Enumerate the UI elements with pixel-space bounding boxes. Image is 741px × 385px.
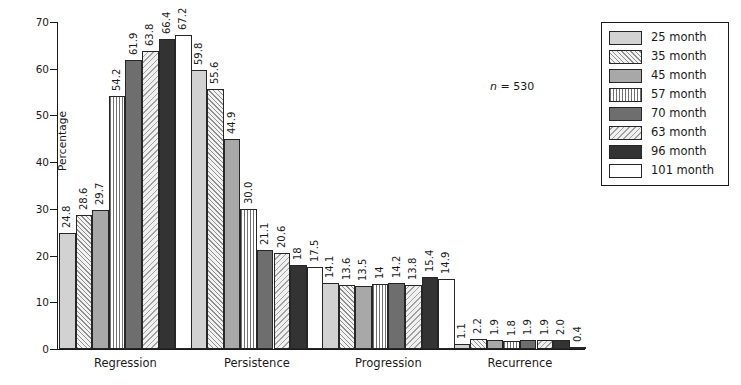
- y-axis-tick: [50, 349, 57, 350]
- y-axis-tick: [50, 302, 57, 303]
- bar-value-label: 59.8: [193, 42, 203, 64]
- bar-value-label: 1.8: [506, 320, 516, 336]
- bar: 1.9: [520, 340, 537, 349]
- bar: 44.9: [224, 139, 241, 349]
- bar: 30.0: [240, 209, 257, 349]
- bar-value-label: 61.9: [128, 33, 138, 55]
- bar-value-label: 14.9: [441, 252, 451, 274]
- y-axis-tick-label: 20: [9, 251, 49, 262]
- y-axis-tick: [50, 69, 57, 70]
- y-axis-tick-label: 50: [9, 110, 49, 121]
- legend-item[interactable]: 57 month: [609, 86, 721, 103]
- bar-value-label: 14: [375, 266, 385, 279]
- y-axis-tick-label: 60: [9, 64, 49, 75]
- legend-swatch: [609, 145, 642, 159]
- legend-swatch: [609, 164, 642, 178]
- bar-value-label: 30.0: [243, 182, 253, 204]
- bar-value-label: 14.1: [325, 256, 335, 278]
- legend-swatch: [609, 50, 642, 64]
- y-axis-tick-label: 40: [9, 157, 49, 168]
- bar-value-label: 2.2: [473, 318, 483, 334]
- bar: 13.8: [405, 285, 422, 349]
- legend-label: 70 month: [651, 108, 707, 120]
- bar-value-label: 67.2: [178, 8, 188, 30]
- y-axis-tick: [50, 115, 57, 116]
- bar-value-label: 13.5: [358, 259, 368, 281]
- legend-item[interactable]: 101 month: [609, 162, 721, 179]
- legend-item[interactable]: 96 month: [609, 143, 721, 160]
- bar: 63.8: [142, 51, 159, 349]
- legend-swatch: [609, 126, 642, 140]
- bar: 1.8: [503, 341, 520, 349]
- legend: 25 month35 month45 month57 month70 month…: [601, 22, 729, 186]
- legend-swatch: [609, 69, 642, 83]
- bar: 1.1: [454, 344, 471, 349]
- bar-value-label: 66.4: [161, 12, 171, 34]
- legend-label: 63 month: [651, 127, 707, 139]
- sample-size-annotation: n = 530: [490, 80, 534, 93]
- bar: 14.1: [322, 283, 339, 349]
- bar: 61.9: [125, 60, 142, 349]
- bar-value-label: 29.7: [95, 183, 105, 205]
- bar: 2.0: [553, 340, 570, 349]
- y-axis-line: [57, 22, 58, 350]
- y-axis-tick-label: 10: [9, 297, 49, 308]
- x-axis-category-label: Progression: [322, 356, 455, 370]
- legend-label: 45 month: [651, 70, 707, 82]
- legend-item[interactable]: 45 month: [609, 67, 721, 84]
- bar-value-label: 0.4: [572, 326, 582, 342]
- sample-size-symbol: n: [490, 80, 497, 93]
- y-axis-tick-label: 0: [9, 344, 49, 355]
- bar: 59.8: [191, 70, 208, 349]
- bar: 24.8: [59, 233, 76, 349]
- bar-value-label: 63.8: [145, 24, 155, 46]
- bar: 14: [372, 284, 389, 349]
- bar-value-label: 1.9: [489, 319, 499, 335]
- legend-label: 96 month: [651, 146, 707, 158]
- bar: 18: [290, 265, 307, 349]
- plot-area: 010203040506070 24.828.629.754.261.963.8…: [57, 22, 585, 350]
- bar-value-label: 13.8: [408, 257, 418, 279]
- bar-value-label: 55.6: [210, 62, 220, 84]
- bar: 55.6: [207, 89, 224, 349]
- y-axis-tick-label: 70: [9, 17, 49, 28]
- bar: 66.4: [159, 39, 176, 349]
- bar-value-label: 1.1: [456, 323, 466, 339]
- y-axis-tick: [50, 22, 57, 23]
- legend-item[interactable]: 70 month: [609, 105, 721, 122]
- bar-value-label: 21.1: [260, 223, 270, 245]
- bar: 2.2: [470, 339, 487, 349]
- bar: 21.1: [257, 250, 274, 349]
- bar: 15.4: [422, 277, 439, 349]
- bar: 20.6: [274, 253, 291, 349]
- bar: 54.2: [109, 96, 126, 349]
- x-axis-category-label: Persistence: [191, 356, 324, 370]
- bar-value-label: 13.6: [341, 258, 351, 280]
- bar: 29.7: [92, 210, 109, 349]
- y-axis-tick: [50, 256, 57, 257]
- bar: 0.4: [570, 347, 587, 349]
- y-axis-tick: [50, 209, 57, 210]
- bar: 67.2: [175, 35, 192, 349]
- legend-label: 57 month: [651, 89, 707, 101]
- bar-value-label: 17.5: [309, 240, 319, 262]
- legend-label: 25 month: [651, 32, 707, 44]
- x-axis-line: [57, 349, 585, 350]
- legend-item[interactable]: 63 month: [609, 124, 721, 141]
- x-axis-category-label: Regression: [59, 356, 192, 370]
- bar: 14.9: [438, 279, 455, 349]
- bar: 17.5: [307, 267, 324, 349]
- legend-swatch: [609, 107, 642, 121]
- bar-value-label: 54.2: [112, 69, 122, 91]
- bar-chart: Percentage 010203040506070 24.828.629.75…: [0, 0, 741, 385]
- y-axis-tick-label: 30: [9, 204, 49, 215]
- legend-swatch: [609, 88, 642, 102]
- bar-value-label: 15.4: [424, 250, 434, 272]
- legend-label: 101 month: [651, 165, 714, 177]
- bar-value-label: 14.2: [391, 255, 401, 277]
- legend-item[interactable]: 25 month: [609, 29, 721, 46]
- bar: 14.2: [388, 283, 405, 349]
- bar: 13.6: [339, 285, 356, 349]
- legend-item[interactable]: 35 month: [609, 48, 721, 65]
- bar-value-label: 44.9: [226, 112, 236, 134]
